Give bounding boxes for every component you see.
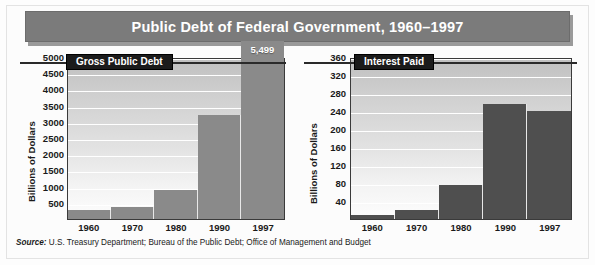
x-tick-label: 1970 [394, 222, 438, 238]
plot-area: 5,499 [67, 58, 285, 220]
source-prefix: Source: [16, 238, 46, 247]
bar-1997 [527, 111, 571, 219]
x-tick-label: 1960 [67, 222, 111, 238]
bar-slot [68, 59, 111, 219]
x-tick-label: 1990 [483, 222, 527, 238]
bar-1960 [351, 215, 395, 219]
y-tick-label: 4500 [43, 69, 64, 79]
page-title: Public Debt of Federal Government, 1960–… [132, 19, 464, 35]
chart-figure: Public Debt of Federal Government, 1960–… [0, 0, 595, 265]
y-tick-label: 320 [330, 71, 346, 81]
y-axis-ticks: 500045004000350030002500200015001000500 [32, 58, 64, 220]
y-tick-label: 160 [330, 143, 346, 153]
badge-connector-line [304, 62, 577, 64]
y-tick-label: 280 [330, 89, 346, 99]
bar-1990 [483, 104, 527, 219]
bar-slot [198, 59, 241, 219]
chart-badge-label: Gross Public Debt [66, 54, 173, 70]
y-tick-label: 2000 [43, 150, 64, 160]
x-tick-label: 1960 [350, 222, 394, 238]
y-tick-label: 4000 [43, 85, 64, 95]
y-tick-label: 1000 [43, 183, 64, 193]
y-tick-label: 40 [335, 197, 346, 207]
y-tick-label: 120 [330, 161, 346, 171]
y-tick-label: 80 [335, 179, 346, 189]
bar-slot: 5,499 [241, 59, 284, 219]
bar-1997: 5,499 [241, 41, 284, 219]
bar-1970 [395, 210, 439, 219]
bar-slot [483, 59, 527, 219]
y-tick-label: 1500 [43, 166, 64, 176]
bar-1980 [154, 190, 197, 219]
x-tick-label: 1980 [439, 222, 483, 238]
bar-slot [351, 59, 395, 219]
x-tick-label: 1997 [241, 222, 285, 238]
bar-slot [111, 59, 154, 219]
x-axis-labels: 19601970198019901997 [67, 222, 285, 238]
bar-1980 [439, 185, 483, 219]
y-tick-label: 3000 [43, 118, 64, 128]
bar-1990 [198, 115, 241, 219]
source-note: Source: U.S. Treasury Department; Bureau… [16, 238, 371, 247]
bar-series [351, 59, 571, 219]
plot-area [350, 58, 572, 220]
bar-series: 5,499 [68, 59, 284, 219]
bar-value-label: 5,499 [241, 44, 284, 55]
y-tick-label: 500 [48, 199, 64, 209]
x-tick-label: 1980 [154, 222, 198, 238]
bar-1960 [68, 210, 111, 219]
chart-badge-label: Interest Paid [354, 54, 434, 70]
y-tick-label: 2500 [43, 134, 64, 144]
bar-slot [439, 59, 483, 219]
bar-slot [395, 59, 439, 219]
x-tick-label: 1997 [528, 222, 572, 238]
title-bar: Public Debt of Federal Government, 1960–… [25, 11, 570, 42]
y-axis-ticks: 3603202802402001601208040 [314, 58, 346, 220]
y-tick-label: 3500 [43, 102, 64, 112]
chart-panel-gross-public-debt: Billions of Dollars 50004500400035003000… [14, 52, 292, 237]
bar-slot [527, 59, 571, 219]
source-text: U.S. Treasury Department; Bureau of the … [46, 238, 370, 247]
x-tick-label: 1990 [198, 222, 242, 238]
y-tick-label: 240 [330, 107, 346, 117]
x-axis-labels: 19601970198019901997 [350, 222, 572, 238]
bar-1970 [111, 207, 154, 219]
bar-slot [154, 59, 197, 219]
chart-panel-interest-paid: Billions of Dollars 36032028024020016012… [298, 52, 583, 237]
y-tick-label: 200 [330, 125, 346, 135]
x-tick-label: 1970 [111, 222, 155, 238]
